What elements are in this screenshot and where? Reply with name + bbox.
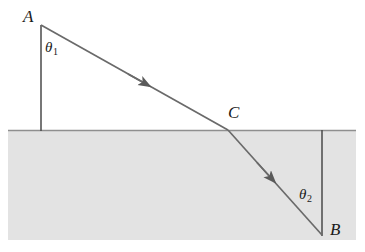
refraction-diagram-canvas xyxy=(0,0,365,252)
lower-medium-region xyxy=(8,130,356,240)
incident-ray-arrow-icon xyxy=(128,74,146,84)
theta2-subscript: 2 xyxy=(307,193,312,204)
angle-label-theta2: θ2 xyxy=(299,187,311,202)
refraction-diagram: A C B θ1 θ2 xyxy=(0,0,365,252)
theta1-symbol: θ xyxy=(45,39,52,55)
angle-label-theta1: θ1 xyxy=(45,40,57,55)
theta1-subscript: 1 xyxy=(53,46,58,57)
point-label-a: A xyxy=(23,8,33,25)
point-label-c: C xyxy=(228,104,239,121)
theta2-symbol: θ xyxy=(299,186,306,202)
point-label-b: B xyxy=(330,221,340,238)
